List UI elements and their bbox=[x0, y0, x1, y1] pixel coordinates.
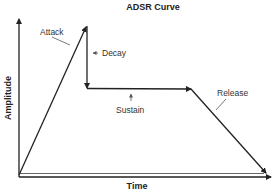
release-pointer bbox=[216, 99, 226, 110]
attack-pointer bbox=[52, 37, 70, 45]
y-axis-label: Amplitude bbox=[3, 76, 13, 120]
attack-segment bbox=[19, 27, 86, 175]
sustain-label: Sustain bbox=[116, 105, 145, 115]
x-axis-label: Time bbox=[127, 181, 148, 191]
sustain-segment bbox=[87, 89, 191, 90]
release-segment bbox=[191, 89, 266, 173]
adsr-diagram: ADSR Curve Amplitude Time Attack Decay S… bbox=[0, 0, 273, 192]
release-label: Release bbox=[217, 88, 248, 98]
attack-label: Attack bbox=[40, 27, 64, 37]
decay-label: Decay bbox=[102, 48, 127, 58]
diagram-title: ADSR Curve bbox=[126, 2, 180, 12]
